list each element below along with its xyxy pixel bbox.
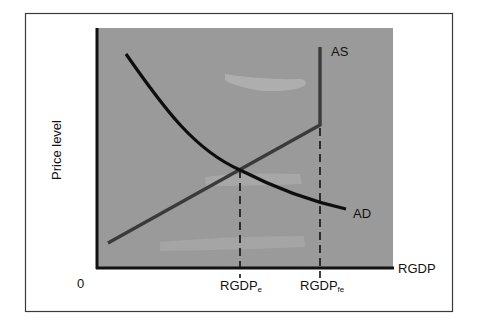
- plot-area: [97, 28, 393, 268]
- origin-label: 0: [77, 276, 84, 291]
- y-axis-label: Price level: [49, 120, 64, 180]
- rgdp-e-base: RGDP: [220, 278, 258, 293]
- ad-label: AD: [353, 206, 371, 221]
- rgdp-e-label: RGDPe: [220, 278, 263, 294]
- ad-as-diagram: AS AD RGDP 0 Price level RGDPe RGDPfe: [0, 0, 477, 329]
- rgdp-fe-subscript: fe: [338, 285, 345, 294]
- rgdp-e-subscript: e: [258, 285, 263, 294]
- rgdp-fe-base: RGDP: [300, 278, 338, 293]
- as-label: AS: [331, 44, 349, 59]
- x-axis-label: RGDP: [398, 261, 436, 276]
